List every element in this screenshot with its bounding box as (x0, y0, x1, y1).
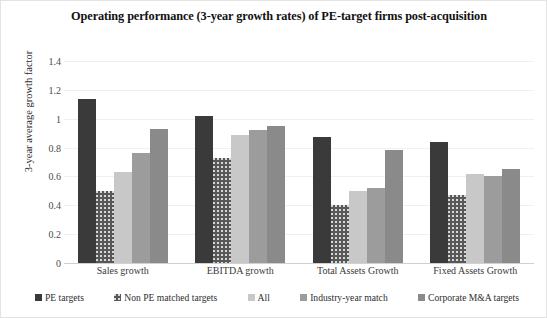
chart-title: Operating performance (3-year growth rat… (59, 9, 499, 24)
legend-swatch-icon (300, 294, 307, 301)
legend-item-corporate-m-a-targets[interactable]: Corporate M&A targets (418, 292, 519, 303)
bar-industry-year-match[interactable] (132, 153, 150, 263)
bar-industry-year-match[interactable] (249, 130, 267, 263)
legend-label: Non PE matched targets (124, 292, 217, 303)
legend-label: Corporate M&A targets (428, 292, 519, 303)
bar-group-sales-growth (64, 61, 182, 263)
bar-pe-targets[interactable] (195, 116, 213, 263)
legend-label: All (258, 292, 270, 303)
x-label-total-assets-growth: Total Assets Growth (299, 265, 417, 276)
y-tick-label-0.4: 0.4 (27, 200, 61, 211)
gridline-0 (64, 263, 534, 264)
bar-groups (64, 61, 534, 263)
x-label-ebitda-growth: EBITDA growth (182, 265, 300, 276)
legend-swatch-icon (248, 294, 255, 301)
bar-non-pe-matched-targets[interactable] (331, 205, 349, 263)
legend-item-all[interactable]: All (248, 292, 270, 303)
y-axis-tick-labels: 00.20.40.60.811.21.4 (21, 61, 61, 263)
legend-label: Industry-year match (310, 292, 388, 303)
x-label-fixed-assets-growth: Fixed Assets Growth (417, 265, 535, 276)
bar-all[interactable] (231, 135, 249, 263)
bar-pe-targets[interactable] (430, 142, 448, 263)
x-axis-category-labels: Sales growthEBITDA growthTotal Assets Gr… (64, 265, 534, 276)
bars (299, 61, 417, 263)
x-label-sales-growth: Sales growth (64, 265, 182, 276)
bar-corporate-m-a-targets[interactable] (150, 129, 168, 263)
bar-industry-year-match[interactable] (367, 188, 385, 263)
bars (64, 61, 182, 263)
bar-pe-targets[interactable] (313, 137, 331, 263)
bar-group-ebitda-growth (182, 61, 300, 263)
legend-item-non-pe-matched-targets[interactable]: Non PE matched targets (114, 292, 217, 303)
y-tick-label-1.2: 1.2 (27, 84, 61, 95)
chart-container: Operating performance (3-year growth rat… (0, 0, 547, 318)
bar-group-fixed-assets-growth (417, 61, 535, 263)
y-tick-label-1.4: 1.4 (27, 56, 61, 67)
legend-swatch-icon (114, 294, 121, 301)
legend-label: PE targets (45, 292, 84, 303)
bar-all[interactable] (114, 172, 132, 263)
bar-group-total-assets-growth (299, 61, 417, 263)
bar-pe-targets[interactable] (78, 99, 96, 263)
bar-industry-year-match[interactable] (484, 176, 502, 263)
bar-non-pe-matched-targets[interactable] (213, 158, 231, 263)
y-tick-label-0.6: 0.6 (27, 171, 61, 182)
bar-non-pe-matched-targets[interactable] (96, 191, 114, 263)
legend-item-pe-targets[interactable]: PE targets (35, 292, 84, 303)
plot-area (64, 61, 534, 263)
y-tick-label-1: 1 (27, 113, 61, 124)
legend-item-industry-year-match[interactable]: Industry-year match (300, 292, 388, 303)
legend-swatch-icon (418, 294, 425, 301)
bar-corporate-m-a-targets[interactable] (267, 126, 285, 263)
bar-all[interactable] (349, 191, 367, 263)
chart-legend: PE targetsNon PE matched targetsAllIndus… (35, 292, 519, 303)
bar-all[interactable] (466, 174, 484, 263)
y-tick-label-0.2: 0.2 (27, 229, 61, 240)
bars (417, 61, 535, 263)
y-tick-label-0: 0 (27, 258, 61, 269)
legend-swatch-icon (35, 294, 42, 301)
bars (182, 61, 300, 263)
bar-corporate-m-a-targets[interactable] (502, 169, 520, 263)
bar-corporate-m-a-targets[interactable] (385, 150, 403, 263)
bar-non-pe-matched-targets[interactable] (448, 195, 466, 263)
y-tick-label-0.8: 0.8 (27, 142, 61, 153)
